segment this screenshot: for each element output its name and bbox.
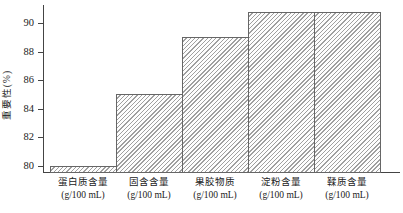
y-tick-mark — [38, 166, 43, 167]
y-tick-mark — [38, 23, 43, 24]
y-axis-title: 重要性(%) — [0, 53, 13, 137]
y-tick-label: 86 — [12, 75, 34, 85]
y-tick-mark — [38, 52, 43, 53]
category-name: 鞣质含量 — [302, 176, 392, 189]
y-axis-line — [43, 5, 44, 173]
y-tick-label: 80 — [12, 161, 34, 171]
x-category-label: 鞣质含量(g/100 mL) — [302, 176, 392, 201]
y-tick-mark — [38, 80, 43, 81]
bar-5 — [314, 12, 381, 173]
bar-1 — [50, 166, 117, 173]
bar-chart: 重要性(%) 808284868890蛋白质含量(g/100 mL)固含含量(g… — [0, 0, 403, 213]
y-tick-label: 88 — [12, 47, 34, 57]
bar-3 — [182, 37, 249, 173]
y-tick-label: 82 — [12, 132, 34, 142]
category-unit: (g/100 mL) — [302, 189, 392, 202]
y-tick-mark — [38, 109, 43, 110]
y-tick-label: 84 — [12, 104, 34, 114]
y-tick-label: 90 — [12, 18, 34, 28]
y-tick-mark — [38, 137, 43, 138]
bar-4 — [248, 12, 315, 173]
bar-2 — [116, 94, 183, 173]
